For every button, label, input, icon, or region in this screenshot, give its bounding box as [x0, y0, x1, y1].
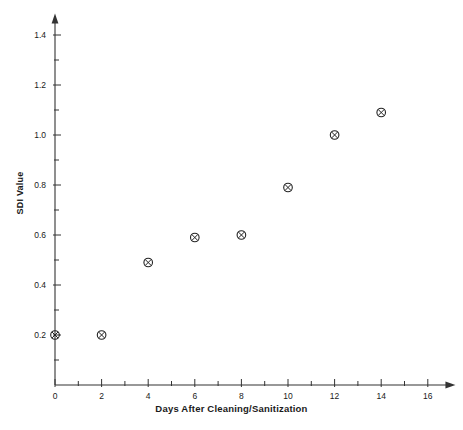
x-tick-label: 16: [423, 391, 432, 401]
x-axis-arrow-icon: [445, 382, 455, 389]
y-tick-label: 0.8: [22, 180, 46, 190]
data-point: [144, 258, 153, 267]
data-point: [97, 331, 106, 340]
scatter-chart-figure: SDI Value Days After Cleaning/Sanitizati…: [0, 0, 463, 430]
y-tick-label: 1.4: [22, 30, 46, 40]
data-point: [377, 108, 386, 117]
x-tick-label: 12: [330, 391, 339, 401]
y-tick-label: 0.6: [22, 230, 46, 240]
x-tick-label: 6: [192, 391, 197, 401]
x-tick-label: 2: [99, 391, 104, 401]
plot-area: [0, 0, 463, 430]
x-axis-title: Days After Cleaning/Sanitization: [0, 403, 463, 414]
y-tick-label: 1.0: [22, 130, 46, 140]
y-axis-arrow-icon: [52, 14, 59, 24]
x-tick-label: 8: [239, 391, 244, 401]
data-point: [284, 183, 293, 192]
x-tick-label: 0: [53, 391, 58, 401]
data-point: [330, 131, 339, 140]
y-tick-label: 1.2: [22, 80, 46, 90]
x-tick-label: 14: [376, 391, 385, 401]
data-point: [191, 233, 200, 242]
y-tick-label: 0.2: [22, 330, 46, 340]
x-tick-label: 4: [146, 391, 151, 401]
y-axis-title: SDI Value: [15, 147, 25, 239]
data-point: [237, 231, 246, 240]
y-tick-label: 0.4: [22, 280, 46, 290]
x-tick-label: 10: [283, 391, 292, 401]
